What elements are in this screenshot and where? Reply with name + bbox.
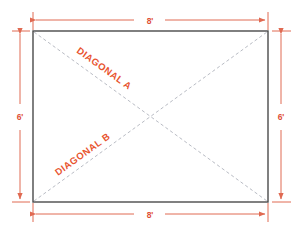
dimension-bottom-label: 8' — [147, 210, 154, 220]
dimension-right-label: 6' — [278, 112, 285, 122]
dimension-bottom: 8' — [36, 210, 265, 220]
dimension-left: 6' — [17, 34, 24, 199]
dimension-top-label: 8' — [147, 16, 154, 26]
diagram-canvas: 8' 8' 6' 6' DIAGONAL A DIAGONAL B — [0, 0, 300, 233]
technical-drawing: 8' 8' 6' 6' DIAGONAL A DIAGONAL B — [0, 0, 300, 233]
dimension-right: 6' — [278, 34, 285, 199]
dimension-left-label: 6' — [17, 112, 24, 122]
dimension-top: 8' — [36, 16, 265, 26]
